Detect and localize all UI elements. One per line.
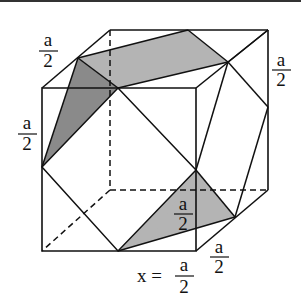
svg-text:2: 2 (43, 50, 53, 71)
cut-line (228, 62, 268, 107)
cube-diagram: a 2 a 2 a 2 a 2 a 2 x = a 2 (0, 0, 301, 299)
label-left: a 2 (18, 112, 37, 154)
cut-line (228, 30, 268, 62)
cut-line (196, 62, 228, 170)
svg-text:x =: x = (137, 265, 162, 286)
label-bottom-right: a 2 (210, 236, 229, 277)
svg-text:a: a (44, 29, 53, 50)
svg-text:2: 2 (22, 133, 32, 154)
svg-text:2: 2 (178, 213, 188, 234)
svg-text:a: a (277, 49, 286, 70)
label-top-left: a 2 (39, 29, 58, 71)
svg-text:a: a (23, 112, 32, 133)
label-right: a 2 (272, 49, 291, 90)
svg-text:2: 2 (276, 69, 286, 90)
svg-text:a: a (215, 236, 224, 257)
svg-text:2: 2 (214, 256, 224, 277)
label-x-equation: x = a 2 (137, 254, 194, 297)
cut-line (235, 107, 268, 217)
svg-text:a: a (179, 193, 188, 214)
svg-text:2: 2 (179, 276, 189, 297)
svg-text:a: a (180, 254, 189, 275)
hidden-edge-left-bottom (42, 190, 110, 251)
